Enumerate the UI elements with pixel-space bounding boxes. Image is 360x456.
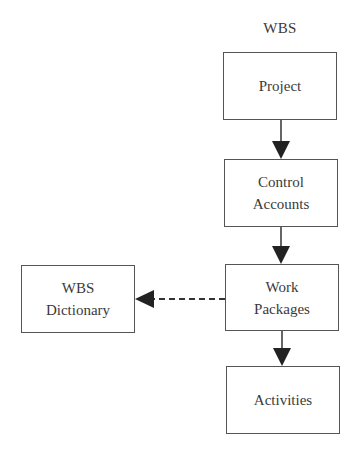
node-work-packages: Work Packages — [225, 264, 339, 331]
node-label: Project — [259, 75, 302, 97]
node-label-line-1: WBS — [46, 277, 110, 299]
arrow-control-accounts-to-work-packages — [272, 226, 290, 264]
dashed-arrow-work-packages-to-wbs-dictionary — [135, 290, 225, 308]
node-wbs-dictionary: WBS Dictionary — [21, 265, 135, 333]
diagram-title: WBS — [230, 20, 330, 37]
node-control-accounts: Control Accounts — [224, 159, 338, 227]
node-activities: Activities — [226, 366, 340, 434]
node-project: Project — [223, 52, 337, 120]
arrow-project-to-control-accounts — [272, 119, 290, 159]
node-label-line-2: Dictionary — [46, 299, 110, 321]
node-label-line-1: Control — [253, 171, 310, 193]
node-label: Activities — [254, 389, 312, 411]
arrow-work-packages-to-activities — [273, 330, 291, 366]
node-label-line-2: Packages — [254, 298, 310, 320]
node-label-line-2: Accounts — [253, 193, 310, 215]
node-label-line-1: Work — [254, 276, 310, 298]
